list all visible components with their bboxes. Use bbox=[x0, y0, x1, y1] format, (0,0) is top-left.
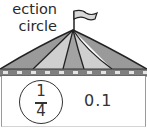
fraction-card: 1 4 0.1 bbox=[1, 76, 146, 127]
tent-trim bbox=[0, 69, 147, 76]
tent-roof bbox=[0, 30, 147, 69]
decimal-value[interactable]: 0.1 bbox=[84, 91, 112, 110]
fraction-numerator: 1 bbox=[20, 84, 62, 99]
fraction-circle[interactable]: 1 4 bbox=[19, 80, 63, 124]
fraction-denominator: 4 bbox=[20, 104, 62, 119]
circus-tent-icon bbox=[0, 0, 147, 80]
flag-icon bbox=[74, 10, 97, 30]
